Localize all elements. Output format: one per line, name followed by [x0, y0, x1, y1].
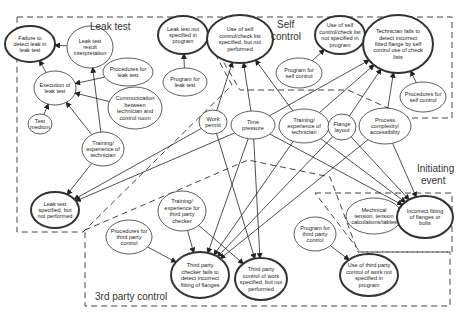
- node-label: specified, but not: [240, 279, 283, 285]
- region-label-self-control-line2: control: [271, 31, 301, 42]
- node-label: Technician fails to: [376, 28, 420, 34]
- node-label: leak test: [20, 47, 41, 53]
- node-label: not performed: [38, 213, 73, 219]
- node-label: Use of self: [327, 22, 354, 28]
- node-procedures_self: Procedures forself control: [400, 82, 446, 112]
- node-label: specified, but: [39, 207, 72, 213]
- edge-training_3rd-to-third_checker_fails: [187, 230, 193, 252]
- node-label: control of work: [243, 273, 280, 279]
- node-work_permit: Workpermit: [199, 110, 227, 134]
- node-label: layout: [335, 127, 350, 133]
- node-flange_layout: Flangelayout: [328, 114, 356, 140]
- node-label: specified in: [169, 32, 197, 38]
- node-leak_specified_not_performed: Leak testspecified, butnot performed: [31, 192, 79, 228]
- node-label: Mechnical: [361, 207, 386, 213]
- node-label: third party: [117, 234, 142, 240]
- edge-training_tech_self-to-incorrect_fitting: [321, 139, 405, 203]
- edge-training_tech_leak-to-execution_leak: [66, 102, 91, 134]
- node-label: self control: [409, 97, 436, 103]
- node-leak_result_interp: Leak testresultinterpretation: [67, 26, 113, 68]
- edge-training_tech_leak-to-leak_result_interp: [93, 68, 101, 132]
- node-label: Procedures for: [111, 228, 148, 234]
- node-label: fitted flange by self: [375, 41, 422, 47]
- node-label: not specified in: [321, 35, 358, 41]
- node-label: program: [173, 38, 194, 44]
- node-label: Leak test: [79, 38, 102, 44]
- node-label: Use of third party: [348, 262, 391, 268]
- node-label: leak test: [118, 72, 139, 78]
- node-program_leak: Program forleak test: [163, 68, 207, 96]
- node-label: result: [83, 44, 97, 50]
- node-label: control/check list: [319, 29, 361, 35]
- node-label: of flanges or: [410, 214, 441, 220]
- edge-program_leak-to-leak_not_specified: [184, 54, 185, 68]
- node-label: performed: [248, 286, 274, 292]
- node-label: Program for: [170, 76, 200, 82]
- node-label: third party: [170, 211, 195, 217]
- node-label: Leak test: [44, 201, 67, 207]
- node-label: accessibility: [370, 129, 400, 135]
- edge-training_tech_self-to-third_checker_fails: [214, 141, 293, 255]
- nodes: Failure todetect leak inleak testLeak te…: [5, 15, 453, 300]
- node-label: pressure: [242, 125, 264, 131]
- node-use_self_not_specified: Use of selfcontrol/check listnot specifi…: [315, 16, 365, 54]
- node-label: performed: [227, 46, 253, 52]
- edge-program_3rd-to-third_control_not_specified: [330, 246, 349, 260]
- node-label: Procedures for: [110, 66, 147, 72]
- node-label: detect incorrect: [379, 35, 418, 41]
- node-label: leak test: [45, 88, 66, 94]
- node-mechanical_tension: Mechnicaltension, tensioncalculations/ta…: [346, 198, 402, 234]
- node-label: Third party: [248, 266, 275, 272]
- node-tech_fails_detect: Technician fails todetect incorrectfitte…: [363, 15, 433, 73]
- edge-program_self-to-use_self_not_specified: [312, 50, 324, 61]
- node-label: Program for: [300, 225, 330, 231]
- node-label: between: [124, 102, 145, 108]
- node-time_pressure: Timepressure: [231, 111, 275, 139]
- node-label: experience for: [164, 205, 200, 211]
- edge-execution_leak-to-failure_detect_leak: [39, 61, 46, 73]
- node-label: Flange: [333, 121, 350, 127]
- edge-training_tech_self-to-tech_fails_detect: [319, 65, 374, 113]
- node-label: detect incorrect: [181, 275, 220, 281]
- node-training_tech_leak: Training/experience oftechnician: [82, 132, 124, 166]
- node-third_checker_fails: Third partychecker fails todetect incorr…: [171, 252, 229, 298]
- node-label: permit: [205, 122, 221, 128]
- node-label: Incorrect fitting: [407, 208, 444, 214]
- node-label: checker fails to: [181, 269, 218, 275]
- node-label: Test: [35, 118, 46, 124]
- node-label: checker: [172, 218, 192, 224]
- node-label: control room: [119, 115, 150, 121]
- node-label: Training/: [171, 198, 193, 204]
- edge-training_tech_leak-to-leak_specified_not_performed: [67, 163, 92, 194]
- node-label: Work: [207, 116, 220, 122]
- node-label: Process: [375, 117, 395, 123]
- region-label-leak-test: Leak test: [90, 21, 131, 32]
- node-label: lists: [393, 54, 403, 60]
- node-label: Communication: [116, 95, 155, 101]
- node-incorrect_fitting: Incorrect fittingof flanges orbolts: [397, 196, 453, 238]
- node-label: Leak test not: [167, 26, 199, 32]
- node-label: Training/: [293, 117, 315, 123]
- node-label: Third party: [187, 262, 214, 268]
- edge-process_complexity-to-incorrect_fitting: [393, 143, 417, 197]
- node-label: Failure to: [18, 35, 41, 41]
- node-label: technician: [90, 152, 115, 158]
- edge-procedures_leak-to-execution_leak: [75, 77, 104, 83]
- node-label: calculations/tables: [351, 219, 397, 225]
- edge-leak_result_interp-to-failure_detect_leak: [55, 45, 67, 46]
- node-third_control_not_specified: Use of third partycontrol of work notspe…: [340, 254, 398, 296]
- node-label: control of work not: [346, 269, 392, 275]
- node-label: interpretation: [74, 50, 107, 56]
- node-label: program: [330, 42, 351, 48]
- node-failure_detect_leak: Failure todetect leak inleak test: [5, 26, 55, 62]
- node-label: fitting of flanges: [180, 282, 219, 288]
- node-training_tech_self: Training/experience oftechnician: [279, 109, 329, 143]
- node-label: experience of: [86, 146, 120, 152]
- edge-communication-to-execution_leak: [75, 93, 109, 102]
- node-label: complexity/: [371, 123, 399, 129]
- node-third_control_not_performed: Third partycontrol of workspecified, but…: [235, 258, 287, 300]
- node-label: bolts: [419, 220, 431, 226]
- node-label: leak test: [175, 82, 196, 88]
- node-label: control: [121, 240, 138, 246]
- node-label: technician: [291, 129, 316, 135]
